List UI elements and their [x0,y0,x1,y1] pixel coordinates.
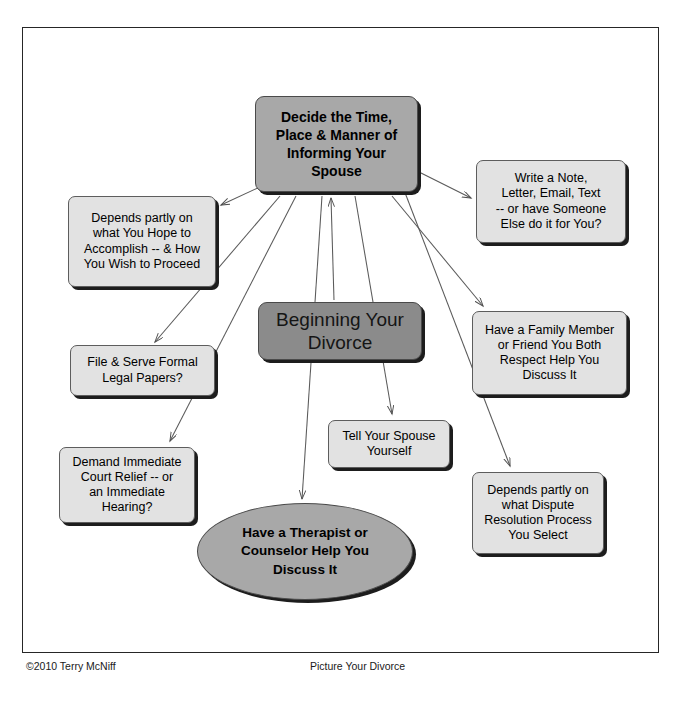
node-decide-time-place-manner[interactable]: Decide the Time,Place & Manner ofInformi… [255,96,418,192]
page-footer: ©2010 Terry McNiff Picture Your Divorce [22,652,659,680]
node-label: Depends partly onwhat DisputeResolution … [478,483,598,544]
node-depends-partly-on-what-you-hope[interactable]: Depends partly onwhat You Hope toAccompl… [68,196,216,287]
node-label: Decide the Time,Place & Manner ofInformi… [261,108,412,181]
node-label: Beginning Your Divorce [264,308,416,354]
diagram-canvas: Decide the Time,Place & Manner ofInformi… [0,0,681,702]
node-label: Tell Your SpouseYourself [334,429,444,460]
copyright-notice: ©2010 Terry McNiff [26,660,116,672]
node-have-a-family-member[interactable]: Have a Family Memberor Friend You BothRe… [472,311,627,395]
node-beginning-your-divorce[interactable]: Beginning Your Divorce [258,302,422,360]
node-depends-partly-on-what-dispute[interactable]: Depends partly onwhat DisputeResolution … [472,472,604,554]
node-file-and-serve-formal-legal-papers[interactable]: File & Serve FormalLegal Papers? [70,345,215,396]
node-label: Write a Note,Letter, Email, Text-- or ha… [482,171,620,232]
node-label: Have a Therapist orCounselor Help YouDis… [203,524,407,579]
node-demand-immediate-court-relief[interactable]: Demand ImmediateCourt Relief -- oran Imm… [59,447,195,523]
node-write-a-note[interactable]: Write a Note,Letter, Email, Text-- or ha… [476,160,626,243]
node-label: File & Serve FormalLegal Papers? [76,355,209,386]
node-tell-your-spouse-yourself[interactable]: Tell Your SpouseYourself [328,420,450,468]
node-label: Have a Family Memberor Friend You BothRe… [478,323,621,384]
node-label: Demand ImmediateCourt Relief -- oran Imm… [65,455,189,516]
node-label: Depends partly onwhat You Hope toAccompl… [74,211,210,272]
node-have-a-therapist-or-counselor[interactable]: Have a Therapist orCounselor Help YouDis… [197,503,413,600]
footer-title: Picture Your Divorce [310,660,405,672]
